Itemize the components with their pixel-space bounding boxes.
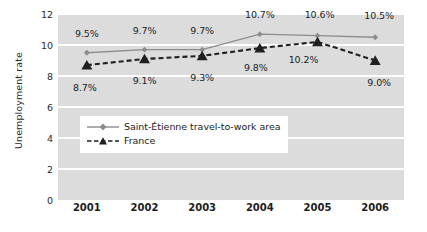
series-1-marker xyxy=(84,50,90,56)
y-axis-tick-label: 12 xyxy=(41,9,53,20)
x-axis-tick-label: 2002 xyxy=(131,202,159,213)
legend-item-series1: Saint-Étienne travel-to-work area xyxy=(86,120,280,134)
y-axis-tick-label: 4 xyxy=(47,133,53,144)
data-label: 8.7% xyxy=(73,82,97,93)
data-label: 9.7% xyxy=(133,24,157,35)
data-label: 10.7% xyxy=(245,9,275,20)
y-axis-tick-labels: 024681012 xyxy=(30,0,56,232)
series-2-marker xyxy=(139,54,150,64)
y-axis-tick-label: 2 xyxy=(47,164,53,175)
x-axis-tick-label: 2001 xyxy=(73,202,101,213)
y-axis-tick-label: 6 xyxy=(47,102,53,113)
legend-item-series2: France xyxy=(86,134,280,148)
data-label: 10.5% xyxy=(364,10,394,21)
legend-key-dashed-triangle xyxy=(86,135,120,147)
series-2-marker xyxy=(197,51,208,61)
y-axis-title: Unemployment rate xyxy=(6,0,32,200)
y-axis-title-label: Unemployment rate xyxy=(14,51,25,148)
series-line-1 xyxy=(87,34,375,53)
x-axis-tick-label: 2003 xyxy=(188,202,216,213)
y-axis-tick-label: 8 xyxy=(47,71,53,82)
x-axis-tick-label: 2005 xyxy=(304,202,332,213)
data-label: 9.8% xyxy=(244,62,268,73)
legend-label-series1: Saint-Étienne travel-to-work area xyxy=(124,121,280,132)
x-axis-tick-label: 2004 xyxy=(246,202,274,213)
data-label: 10.2% xyxy=(289,53,319,64)
data-label: 9.0% xyxy=(367,76,391,87)
y-axis-tick-label: 0 xyxy=(47,195,53,206)
plot-area: 9.5%9.7%9.7%10.7%10.6%10.5%8.7%9.1%9.3%9… xyxy=(58,14,404,200)
x-axis-tick-labels: 200120022003200420052006 xyxy=(58,202,404,222)
data-label: 9.5% xyxy=(75,27,99,38)
y-axis-tick-label: 10 xyxy=(41,40,53,51)
series-1-marker xyxy=(372,34,378,40)
series-line-2 xyxy=(87,42,375,65)
x-axis-tick-label: 2006 xyxy=(361,202,389,213)
legend-key-solid-diamond xyxy=(86,121,120,133)
chart-legend: Saint-Étienne travel-to-work area France xyxy=(80,116,288,153)
series-1-marker xyxy=(257,31,263,37)
series-1-marker xyxy=(142,47,148,53)
legend-label-series2: France xyxy=(124,135,155,146)
data-label: 10.6% xyxy=(305,8,335,19)
data-label: 9.3% xyxy=(190,71,214,82)
data-label: 9.1% xyxy=(133,74,157,85)
unemployment-rate-line-chart: Unemployment rate 024681012 9.5%9.7%9.7%… xyxy=(0,0,427,232)
series-lines xyxy=(58,14,404,200)
data-label: 9.7% xyxy=(190,24,214,35)
